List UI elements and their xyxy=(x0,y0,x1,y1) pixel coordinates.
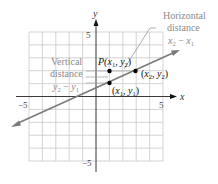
x-axis-label: x xyxy=(179,91,185,102)
vertical-distance-label-line1: Vertical xyxy=(51,56,82,67)
vertical-distance-formula: y2 − y1 xyxy=(52,81,79,93)
line-through-points xyxy=(16,53,174,125)
vertical-distance-label-line2: distance xyxy=(50,68,83,79)
y-axis-arrow-icon xyxy=(94,19,99,26)
point-x2y2 xyxy=(133,69,137,73)
y-min-tick-label: −5 xyxy=(82,158,92,168)
point-x1y1-label: (x1, y1) xyxy=(112,85,139,97)
y-axis-label: y xyxy=(92,8,98,19)
coordinate-diagram: y x 5 −5 −5 5 P(x1, y2) (x2, y2) (x1, y1… xyxy=(0,0,218,184)
horizontal-distance-formula: x2 − x1 xyxy=(167,35,194,47)
point-p xyxy=(107,69,111,73)
line-arrow-left-icon xyxy=(11,121,21,128)
line-arrow-right-icon xyxy=(171,50,180,56)
horizontal-distance-label-line1: Horizontal xyxy=(163,10,206,21)
y-max-tick-label: 5 xyxy=(86,30,91,40)
x-axis-arrow-icon xyxy=(170,94,177,99)
axes xyxy=(16,25,172,172)
point-x2y2-label: (x2, y2) xyxy=(141,68,168,80)
x-max-tick-label: 5 xyxy=(159,100,164,110)
x-min-tick-label: −5 xyxy=(18,100,28,110)
horizontal-distance-label-line2: distance xyxy=(167,22,200,33)
